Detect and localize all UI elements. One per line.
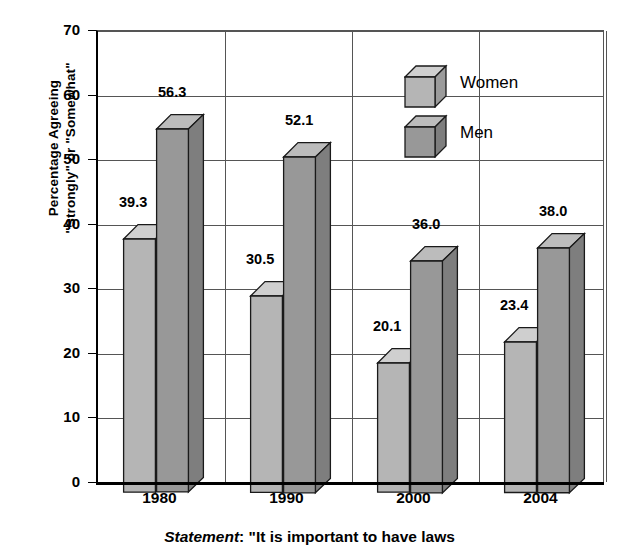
y-axis-tick-mark bbox=[88, 224, 96, 225]
bar-front-face bbox=[284, 157, 316, 493]
legend-label: Men bbox=[460, 124, 493, 141]
y-axis-tick-label: 30 bbox=[46, 280, 80, 295]
bar-women-2004 bbox=[504, 331, 537, 497]
x-axis-line bbox=[96, 482, 604, 485]
bar-chart: Percentage Agreeing "Strongly" or "Somew… bbox=[0, 0, 619, 555]
chart-caption: Statement: "It is important to have laws bbox=[0, 528, 619, 546]
gridline-vertical bbox=[606, 31, 607, 482]
y-axis-tick-mark bbox=[88, 288, 96, 289]
gridline-vertical bbox=[352, 31, 353, 482]
x-axis-tick-label: 2000 bbox=[350, 490, 477, 506]
bar-women-2000 bbox=[377, 352, 410, 497]
cube-front-face bbox=[405, 77, 435, 107]
bar-front-face bbox=[157, 129, 189, 492]
bar-side-face bbox=[569, 233, 584, 492]
bar-side-face bbox=[442, 246, 457, 492]
y-axis-tick-label: 10 bbox=[46, 409, 80, 424]
y-axis-tick-label: 50 bbox=[46, 151, 80, 166]
y-axis-tick-label: 0 bbox=[46, 474, 80, 489]
bar-value-label: 23.4 bbox=[500, 298, 528, 313]
y-axis-tick-label: 20 bbox=[46, 345, 80, 360]
bar-front-face bbox=[124, 239, 156, 492]
bar-front-face bbox=[538, 248, 570, 493]
bar-3d-shape bbox=[537, 233, 589, 497]
y-axis-title: Percentage Agreeing "Strongly" or "Somew… bbox=[42, 0, 82, 298]
bar-value-label: 38.0 bbox=[539, 204, 567, 219]
bar-men-1990 bbox=[283, 146, 316, 497]
gridline-vertical bbox=[479, 31, 480, 482]
caption-rest: : "It is important to have laws bbox=[239, 528, 455, 545]
bar-front-face bbox=[411, 261, 443, 493]
bar-front-face bbox=[505, 342, 537, 492]
plot-area: 39.356.330.552.120.136.023.438.0 bbox=[96, 30, 604, 482]
bar-3d-shape bbox=[156, 114, 208, 497]
bar-value-label: 20.1 bbox=[373, 319, 401, 334]
bar-3d-shape bbox=[283, 142, 335, 497]
y-axis-tick-mark bbox=[88, 159, 96, 160]
bar-men-1980 bbox=[156, 118, 189, 497]
bar-men-2004 bbox=[537, 237, 570, 497]
bar-front-face bbox=[378, 363, 410, 492]
bar-3d-shape bbox=[410, 246, 462, 497]
bar-women-1990 bbox=[250, 285, 283, 497]
bar-side-face bbox=[188, 115, 203, 492]
y-axis-tick-mark bbox=[88, 417, 96, 418]
y-axis-tick-mark bbox=[88, 95, 96, 96]
bar-front-face bbox=[251, 296, 283, 492]
caption-lead: Statement bbox=[164, 528, 239, 545]
bar-men-2000 bbox=[410, 250, 443, 497]
cube-front-face bbox=[405, 127, 435, 157]
y-axis-tick-mark bbox=[88, 482, 96, 483]
bar-value-label: 30.5 bbox=[246, 252, 274, 267]
x-axis-tick-label: 1990 bbox=[223, 490, 350, 506]
y-axis-tick-label: 40 bbox=[46, 216, 80, 231]
gridline-vertical bbox=[225, 31, 226, 482]
gridline-horizontal bbox=[98, 31, 603, 32]
bar-value-label: 56.3 bbox=[158, 85, 186, 100]
cube-icon-dark bbox=[404, 114, 448, 158]
bar-women-1980 bbox=[123, 228, 156, 497]
bar-value-label: 36.0 bbox=[412, 217, 440, 232]
bar-value-label: 39.3 bbox=[119, 195, 147, 210]
y-axis-tick-label: 70 bbox=[46, 22, 80, 37]
cube-3d-shape bbox=[404, 64, 448, 108]
x-axis-tick-label: 1980 bbox=[96, 490, 223, 506]
y-axis-tick-mark bbox=[88, 353, 96, 354]
y-axis-tick-label: 60 bbox=[46, 87, 80, 102]
legend-label: Women bbox=[460, 74, 518, 91]
cube-icon-light bbox=[404, 64, 448, 108]
y-axis-tick-mark bbox=[88, 30, 96, 31]
bar-value-label: 52.1 bbox=[285, 113, 313, 128]
cube-3d-shape bbox=[404, 114, 448, 158]
x-axis-tick-label: 2004 bbox=[477, 490, 604, 506]
bar-side-face bbox=[315, 142, 330, 492]
